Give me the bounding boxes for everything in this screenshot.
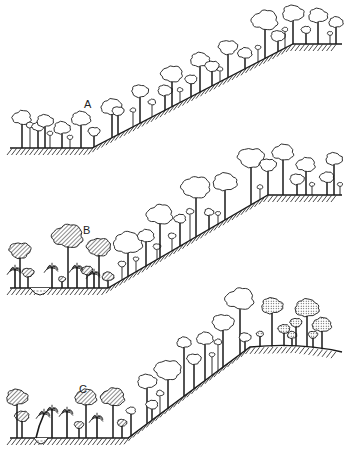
tree	[308, 331, 318, 347]
tree	[100, 388, 125, 438]
tree	[327, 31, 332, 44]
stream-channel	[30, 288, 50, 295]
palm-tree	[44, 405, 58, 438]
tree	[130, 108, 136, 127]
tree	[309, 182, 314, 195]
panel-label-b: B	[83, 224, 90, 236]
tree	[262, 297, 284, 346]
tree	[186, 208, 194, 240]
tree	[168, 233, 176, 251]
tree	[54, 121, 71, 148]
tree	[138, 374, 157, 424]
tree	[47, 131, 53, 148]
tree	[301, 26, 311, 44]
tree	[75, 389, 97, 438]
ground-line	[10, 345, 342, 438]
tree	[215, 212, 220, 225]
tree	[185, 75, 197, 97]
tree	[177, 87, 183, 102]
tree	[255, 45, 261, 62]
tree	[51, 224, 83, 288]
tree	[204, 61, 219, 86]
panel-label-c: C	[79, 383, 87, 395]
tree	[117, 419, 127, 438]
tree	[22, 268, 34, 288]
tree	[272, 144, 294, 195]
tree	[148, 99, 156, 117]
tree	[337, 182, 342, 195]
palm-tree	[59, 407, 73, 438]
tree	[112, 107, 124, 135]
tree	[58, 276, 65, 288]
panel-a	[7, 5, 343, 155]
tree	[283, 5, 305, 44]
tree	[12, 110, 32, 148]
tree	[329, 16, 344, 44]
tree	[209, 353, 215, 376]
panel-label-a: A	[84, 98, 91, 110]
tree	[204, 208, 214, 229]
tree	[257, 185, 263, 200]
tree	[71, 111, 91, 148]
tree	[74, 422, 84, 438]
tree	[186, 354, 201, 389]
tree	[309, 8, 328, 44]
forest-profile-diagram	[0, 0, 351, 461]
tree	[218, 41, 238, 78]
tree	[217, 67, 223, 82]
tree	[101, 98, 123, 137]
panel-c	[7, 288, 342, 445]
tree	[173, 214, 185, 246]
tree	[132, 85, 149, 123]
tree	[256, 331, 263, 347]
palm-tree	[89, 413, 103, 438]
tree	[158, 85, 173, 110]
panel-b	[7, 144, 343, 295]
tree	[67, 135, 73, 148]
tree	[319, 172, 334, 195]
tree	[133, 257, 139, 272]
palm-tree	[44, 263, 58, 288]
tree	[180, 177, 209, 237]
tree	[259, 159, 276, 195]
palm-tree	[36, 409, 50, 438]
palm-tree	[7, 265, 21, 288]
tree	[118, 261, 126, 280]
palm-tree	[69, 263, 83, 288]
tree	[191, 52, 210, 92]
tree	[290, 174, 305, 195]
